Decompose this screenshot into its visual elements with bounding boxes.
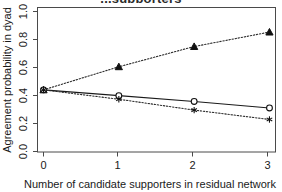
y-axis: 0.0 0.2 0.4 0.6 0.8 1.0 [17,4,38,159]
x-tick-label-1: 1 [114,159,120,171]
y-tick-label-1: 0.2 [17,116,29,131]
x-tick-label-2: 2 [189,159,195,171]
series-line-rising-triangle [44,32,270,90]
data-point-declining-circle [267,105,273,111]
x-tick-label-0: 0 [40,159,46,171]
chart-figure: ...supporters 0.0 0.2 0.4 0.6 0.8 1.0 Ag… [0,0,282,192]
y-tick-label-3: 0.6 [17,60,29,75]
series-rising-triangle [40,28,273,92]
plot-frame [38,8,276,153]
x-axis-label: Number of candidate supporters in residu… [24,178,276,190]
series-layer [40,28,273,122]
y-tick-label-5: 1.0 [17,4,29,19]
chart-title: ...supporters [0,0,282,3]
y-tick-label-4: 0.8 [17,32,29,47]
series-line-declining-circle [44,90,270,108]
chart-canvas: 0.0 0.2 0.4 0.6 0.8 1.0 Agreement probab… [0,0,282,192]
series-declining-circle [41,87,273,111]
y-tick-label-2: 0.4 [17,88,29,103]
x-tick-label-3: 3 [264,159,270,171]
x-axis: 0 1 2 3 [40,152,270,171]
y-tick-label-0: 0.0 [17,144,29,159]
y-axis-label: Agreement probability in dyad [1,7,13,153]
data-point-declining-circle [191,99,197,105]
data-point-rising-triangle [266,28,273,35]
